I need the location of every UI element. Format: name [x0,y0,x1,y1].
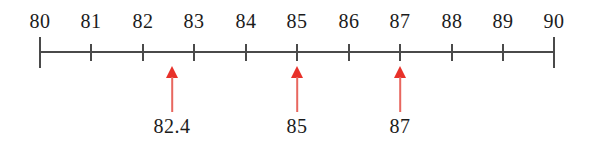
axis-label-90: 90 [544,11,565,31]
axis-tick-87 [399,44,401,61]
axis-label-88: 88 [442,11,463,31]
axis-tick-88 [451,44,453,61]
marker-82-4 [164,66,180,112]
axis-label-84: 84 [236,11,257,31]
axis-label-87: 87 [390,11,411,31]
marker-85 [289,66,305,112]
axis-tick-85 [296,44,298,61]
marker-shaft [171,77,173,112]
marker-label-82-4: 82.4 [154,116,191,136]
axis-tick-82 [142,44,144,61]
axis-tick-80 [39,37,41,68]
axis-tick-90 [553,37,555,68]
axis-tick-83 [193,44,195,61]
marker-87 [392,66,408,112]
axis-tick-84 [245,44,247,61]
axis-tick-89 [502,44,504,61]
axis-label-89: 89 [493,11,514,31]
number-line-figure: 80 81 82 83 84 85 86 87 88 89 90 82.4 85… [0,0,591,147]
marker-label-87: 87 [390,116,411,136]
marker-shaft [399,77,401,112]
marker-label-85: 85 [287,116,308,136]
axis-tick-86 [348,44,350,61]
marker-shaft [296,77,298,112]
axis-label-80: 80 [30,11,51,31]
axis-label-81: 81 [81,11,102,31]
axis-label-82: 82 [133,11,154,31]
axis-label-86: 86 [339,11,360,31]
axis-label-85: 85 [287,11,308,31]
axis-tick-81 [90,44,92,61]
axis-label-83: 83 [184,11,205,31]
